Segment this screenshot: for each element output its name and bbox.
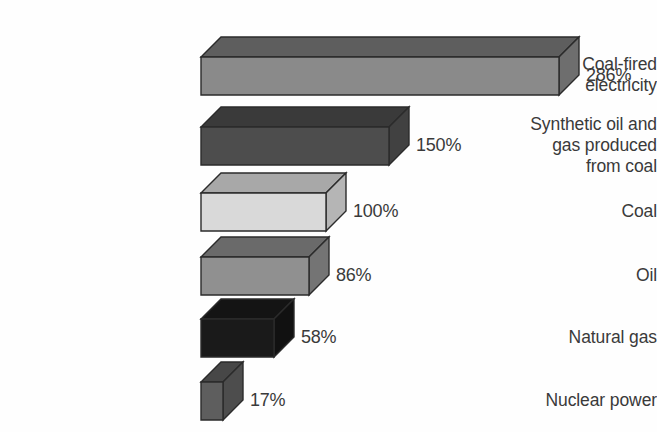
bar-front-face-coal-fired-electricity — [201, 57, 559, 95]
bar-synthetic-oil-and-gas-from-coal — [200, 106, 410, 166]
bar-coal-fired-electricity — [200, 36, 580, 96]
value-label-oil: 86% — [336, 266, 371, 284]
chart-row: Coal-fired electricity286% — [0, 36, 657, 94]
bar-natural-gas — [200, 298, 295, 358]
value-label-natural-gas: 58% — [301, 328, 336, 346]
bar-front-face-synthetic-oil-and-gas-from-coal — [201, 127, 389, 165]
bar-top-face-oil — [201, 237, 329, 257]
bar-shape-nuclear-power — [200, 361, 244, 421]
value-label-synthetic-oil-and-gas-from-coal: 150% — [416, 136, 461, 154]
chart-row: Oil86% — [0, 236, 657, 294]
value-label-nuclear-power: 17% — [250, 391, 285, 409]
chart-row: Nuclear power17% — [0, 361, 657, 419]
bar-coal — [200, 172, 347, 232]
bar-front-face-coal — [201, 193, 326, 231]
category-label-nuclear-power: Nuclear power — [472, 390, 657, 411]
bar-nuclear-power — [200, 361, 244, 421]
bar-oil — [200, 236, 330, 296]
chart-row: Synthetic oil and gas produced from coal… — [0, 106, 657, 164]
bar-shape-natural-gas — [200, 298, 295, 358]
bar-shape-coal-fired-electricity — [200, 36, 580, 96]
bar-shape-coal — [200, 172, 347, 232]
bar-top-face-coal — [201, 173, 346, 193]
category-label-coal: Coal — [472, 201, 657, 222]
bar-top-face-coal-fired-electricity — [201, 37, 579, 57]
bar-front-face-natural-gas — [201, 319, 274, 357]
bar-shape-oil — [200, 236, 330, 296]
chart-row: Natural gas58% — [0, 298, 657, 356]
bar-shape-synthetic-oil-and-gas-from-coal — [200, 106, 410, 166]
bar-front-face-oil — [201, 257, 309, 295]
bar-front-face-nuclear-power — [201, 382, 223, 420]
chart-row: Coal100% — [0, 172, 657, 230]
bar-chart: Coal-fired electricity286%Synthetic oil … — [0, 0, 657, 432]
value-label-coal-fired-electricity: 286% — [586, 66, 631, 84]
category-label-synthetic-oil-and-gas-from-coal: Synthetic oil and gas produced from coal — [472, 114, 657, 177]
category-label-oil: Oil — [472, 265, 657, 286]
bar-top-face-synthetic-oil-and-gas-from-coal — [201, 107, 409, 127]
value-label-coal: 100% — [353, 202, 398, 220]
category-label-natural-gas: Natural gas — [472, 327, 657, 348]
